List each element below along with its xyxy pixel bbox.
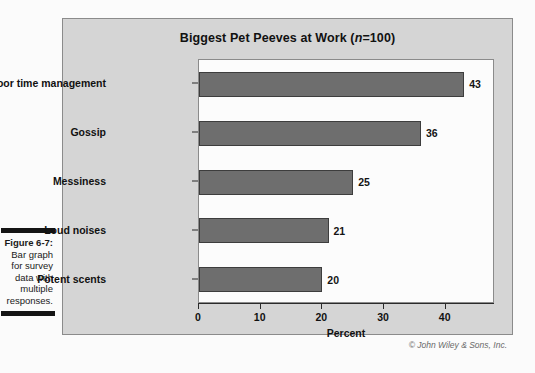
x-axis-tick-label: 40 [439, 311, 451, 323]
copyright-notice: © John Wiley & Sons, Inc. [62, 340, 513, 350]
caption-line-5: responses. [0, 295, 53, 307]
x-axis-tick [383, 303, 384, 309]
bar [199, 170, 353, 195]
bar-row [199, 72, 493, 97]
x-axis-title: Percent [198, 327, 494, 339]
bar-row [199, 267, 493, 292]
plot-area: 4336252120 [198, 59, 494, 303]
chart-title-suffix: =100) [362, 31, 395, 45]
bars-layer: 4336252120 [199, 60, 493, 302]
category-tick [192, 181, 198, 182]
bar-value-label: 36 [426, 127, 438, 139]
x-axis-tick-label: 0 [195, 311, 201, 323]
figure-number: Figure 6-7: [0, 237, 53, 249]
category-tick [192, 229, 198, 230]
bar-value-label: 43 [469, 78, 481, 90]
bar-row [199, 170, 493, 195]
bar-value-label: 25 [358, 176, 370, 188]
bar-row [199, 121, 493, 146]
x-axis-line [198, 303, 494, 304]
caption-line-1: Bar graph [0, 249, 53, 261]
caption-line-2: for survey [0, 260, 53, 272]
category-label: Messiness [53, 175, 106, 187]
figure-caption-text: Figure 6-7: Bar graph for survey data wi… [0, 233, 58, 308]
bar [199, 218, 329, 243]
caption-rule-bottom [1, 311, 55, 316]
x-axis-tick-label: 30 [377, 311, 389, 323]
caption-line-4: multiple [0, 283, 53, 295]
category-label: Poor time management [0, 77, 106, 89]
x-axis-tick [321, 303, 322, 309]
category-label: Loud noises [44, 224, 106, 236]
chart-frame: Biggest Pet Peeves at Work (n=100) 43362… [62, 18, 513, 335]
category-tick [192, 132, 198, 133]
bar [199, 267, 322, 292]
x-axis-tick-label: 10 [254, 311, 266, 323]
x-axis-tick [260, 303, 261, 309]
x-axis-tick-label: 20 [315, 311, 327, 323]
category-label: Gossip [70, 126, 106, 138]
x-axis-tick [198, 303, 199, 309]
bar [199, 121, 421, 146]
chart-title: Biggest Pet Peeves at Work (n=100) [63, 31, 512, 45]
bar-value-label: 20 [327, 274, 339, 286]
bar-value-label: 21 [334, 225, 346, 237]
chart-title-prefix: Biggest Pet Peeves at Work ( [180, 31, 355, 45]
x-axis-tick [445, 303, 446, 309]
category-tick [192, 83, 198, 84]
bar [199, 72, 464, 97]
bar-row [199, 218, 493, 243]
category-label: Potent scents [37, 273, 106, 285]
category-tick [192, 278, 198, 279]
